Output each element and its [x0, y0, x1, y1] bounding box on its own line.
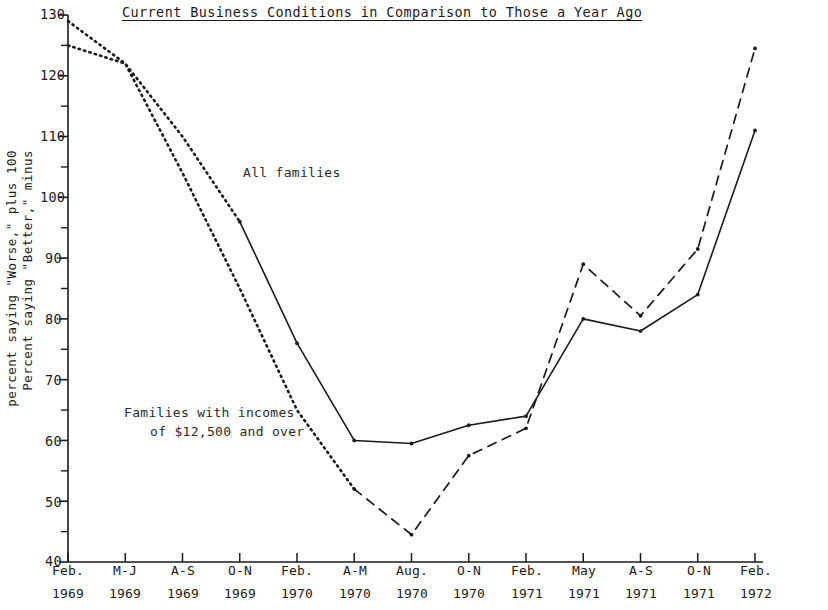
axes [59, 15, 763, 562]
data-series [68, 21, 757, 536]
plot-area [0, 0, 828, 610]
chart-figure: Current Business Conditions in Compariso… [0, 0, 828, 610]
